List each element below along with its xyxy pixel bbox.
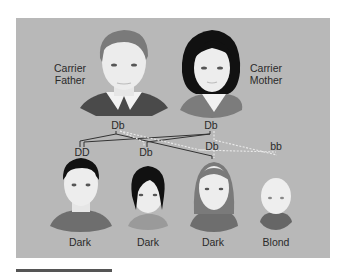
mother-label: Carrier Mother bbox=[246, 62, 286, 86]
child-4-phenotype: Blond bbox=[256, 236, 296, 248]
child-2-portrait bbox=[128, 166, 168, 230]
child-4-genotype: bb bbox=[264, 140, 288, 152]
father-genotype: Db bbox=[106, 119, 130, 131]
child-3-phenotype: Dark bbox=[195, 236, 231, 248]
child-1-portrait bbox=[50, 158, 112, 232]
child-1-phenotype: Dark bbox=[62, 236, 98, 248]
child-1-genotype: DD bbox=[70, 146, 94, 158]
mother-portrait bbox=[180, 30, 242, 118]
child-3-genotype: Db bbox=[200, 140, 224, 152]
mother-genotype: Db bbox=[199, 119, 223, 131]
father-portrait bbox=[80, 30, 168, 116]
pedigree-illustration bbox=[0, 0, 343, 272]
father-label: Carrier Father bbox=[50, 62, 90, 86]
child-3-portrait bbox=[190, 162, 238, 232]
child-2-genotype: Db bbox=[134, 146, 158, 158]
child-4-portrait bbox=[260, 178, 292, 230]
child-2-phenotype: Dark bbox=[130, 236, 166, 248]
